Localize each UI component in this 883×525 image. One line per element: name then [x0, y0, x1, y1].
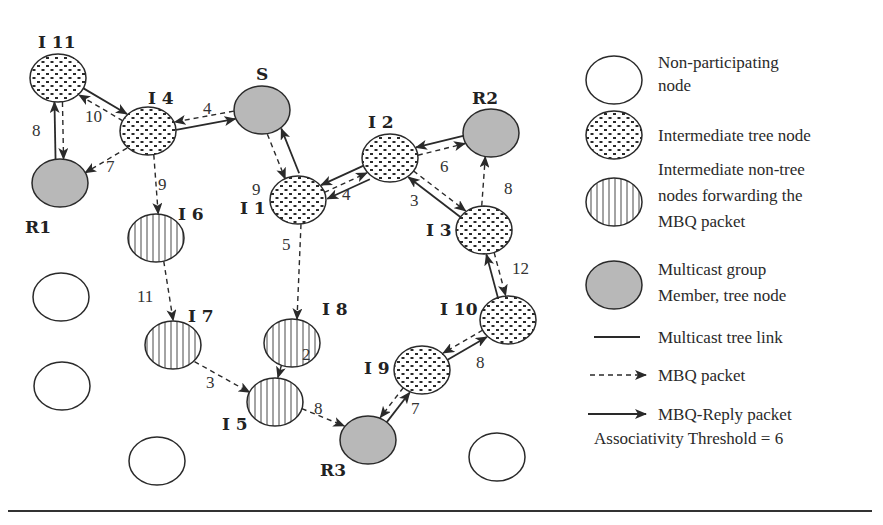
mbq-packet-arrow-s-to-i1	[267, 134, 285, 179]
legend-label: Multicast group	[658, 260, 766, 279]
tree-node-shape	[30, 54, 86, 102]
node-label: I 4	[148, 88, 174, 108]
mbq-packet-arrow-i6-to-i7	[164, 261, 173, 320]
tree-node-symbol-icon	[586, 111, 642, 159]
member-node-shape	[340, 416, 396, 464]
legend-label: Member, tree node	[658, 286, 786, 305]
non-participating-node	[34, 362, 90, 410]
mbq-packet-arrow-i5-to-r3	[302, 409, 344, 426]
edge-weight-label: 7	[106, 157, 115, 176]
mbq-reply-arrow-r1-to-i11	[54, 102, 55, 159]
node-label: R1	[25, 217, 51, 237]
legend-label: MBQ-Reply packet	[658, 405, 792, 424]
legend-item-member: Multicast groupMember, tree node	[586, 260, 786, 309]
legend-item-tree-link: Multicast tree link	[594, 328, 783, 347]
mbq-packet-arrow-i9-to-r3	[380, 388, 403, 418]
mbq-reply-arrow-r3-to-i9	[387, 392, 410, 422]
node-label: I 5	[222, 414, 248, 434]
node-s: S	[234, 64, 290, 134]
node-r2: R2	[463, 88, 519, 157]
edge-weight-label: 8	[504, 179, 513, 198]
edge-weight-label: 12	[512, 259, 529, 278]
legend-item-nontree: Intermediate non-treenodes forwarding th…	[586, 160, 805, 231]
edge-weight-label: 9	[158, 175, 167, 194]
legend-item-reply: MBQ-Reply packet	[588, 405, 792, 424]
edge-weight-label: 4	[342, 185, 351, 204]
edge-weight-label: 10	[85, 107, 102, 126]
legend-label: nodes forwarding the	[658, 186, 802, 205]
legend-label: MBQ packet	[658, 212, 746, 231]
node-i10: I 10	[440, 296, 536, 344]
edge-weight-label: 2	[302, 345, 311, 364]
non-participating-node	[33, 273, 89, 321]
tree-node-shape	[394, 346, 450, 394]
member-node-symbol-icon	[586, 261, 642, 309]
diagram-canvas: I 11R1I 4SI 1I 2R2I 3I 6I 7I 8I 5I 9I 10…	[0, 0, 883, 525]
nontree-node-shape	[247, 378, 303, 426]
edge-weight-label: 9	[252, 180, 261, 199]
node-i3: I 3	[426, 206, 512, 254]
legend-label: Multicast tree link	[658, 328, 783, 347]
member-node-shape	[463, 109, 519, 157]
blank-node-symbol-icon	[586, 56, 642, 104]
member-node-shape	[32, 159, 88, 207]
legend-item-blank: Non-participatingnode	[586, 53, 779, 104]
legend-label: node	[658, 76, 691, 95]
nontree-node-shape	[264, 319, 320, 367]
edge-weight-label: 8	[476, 353, 485, 372]
edge-weight-label: 8	[314, 399, 323, 418]
legend-item-tree: Intermediate tree node	[586, 111, 811, 159]
mbq-packet-arrow-i11-to-r1	[62, 102, 63, 159]
node-label: I 2	[368, 112, 394, 132]
nontree-node-symbol-icon	[586, 178, 642, 226]
edge-weight-label: 5	[282, 235, 291, 254]
tree-node-shape	[120, 107, 176, 155]
node-label: I 6	[178, 204, 204, 224]
legend-label: Intermediate tree node	[658, 126, 811, 145]
mbq-packet-arrow-i3-to-r2	[482, 157, 486, 206]
node-label: I 9	[364, 358, 390, 378]
node-i2: I 2	[362, 112, 418, 182]
mbq-packet-arrow-i1-to-i8	[297, 224, 301, 319]
node-label: I 8	[322, 299, 348, 319]
node-label: I 1	[240, 198, 266, 218]
edge-weight-label: 8	[32, 121, 41, 140]
tree-node-shape	[270, 176, 326, 224]
node-i6: I 6	[128, 204, 204, 262]
associativity-threshold-note: Associativity Threshold = 6	[594, 429, 783, 448]
legend-label: MBQ packet	[658, 366, 746, 385]
mbq-reply-arrow-i2-to-i1	[321, 166, 364, 185]
legend-label: Intermediate non-tree	[658, 160, 805, 179]
legend-item-mbq: MBQ packet	[590, 366, 746, 385]
nontree-node-shape	[128, 214, 184, 262]
node-label: R2	[472, 88, 498, 108]
tree-node-shape	[362, 134, 418, 182]
edge-weight-label: 11	[137, 287, 153, 306]
edge-weight-label: 6	[440, 157, 449, 176]
node-r1: R1	[25, 159, 88, 237]
blank-node-shape	[129, 437, 185, 485]
mbq-packet-arrow-i2-to-i3	[413, 171, 465, 211]
node-i9: I 9	[364, 346, 450, 394]
node-i7: I 7	[145, 306, 214, 369]
node-i5: I 5	[222, 378, 303, 434]
legend: Non-participatingnodeIntermediate tree n…	[586, 53, 811, 448]
legend-label: Non-participating	[658, 53, 779, 72]
edge-weight-label: 3	[410, 191, 419, 210]
blank-node-shape	[33, 273, 89, 321]
mbq-packet-arrow-i8-to-i5	[278, 365, 282, 377]
blank-node-shape	[469, 433, 525, 481]
nontree-node-shape	[145, 321, 201, 369]
mbq-packet-arrow-i10-to-i9	[443, 330, 483, 353]
edge-weight-label: 7	[411, 399, 420, 418]
non-participating-node	[129, 437, 185, 485]
node-label: S	[256, 64, 268, 84]
node-label: I 3	[426, 220, 452, 240]
node-r3: R3	[320, 416, 396, 480]
mbq-packet-arrow-i7-to-i5	[195, 362, 250, 393]
blank-node-shape	[34, 362, 90, 410]
node-label: I 11	[38, 32, 76, 52]
node-label: R3	[320, 460, 346, 480]
edge-weight-label: 4	[203, 99, 212, 118]
mbq-reply-arrow-i1-to-s	[281, 129, 299, 174]
